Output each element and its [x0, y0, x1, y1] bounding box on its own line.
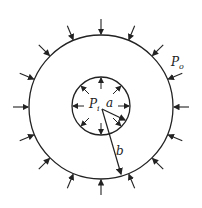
outer-pressure-arrow	[153, 159, 164, 170]
inner-radius-label: a	[106, 96, 113, 110]
inner-pressure-label: Pi	[89, 97, 100, 113]
outer-pressure-arrow	[39, 159, 50, 170]
outer-pressure-arrow	[153, 45, 164, 56]
outer-radius-label: b	[116, 144, 124, 158]
outer-circle	[29, 35, 173, 179]
inner-pressure-arrow	[81, 118, 89, 126]
outer-pressure-arrow	[39, 45, 50, 56]
inner-pressure-arrow	[113, 86, 121, 94]
radius-b-arrow	[102, 109, 121, 174]
outer-pressure-arrow	[20, 135, 34, 141]
outer-pressure-arrow	[67, 174, 73, 188]
outer-pressure-arrow	[168, 135, 182, 141]
outer-pressure-arrow	[129, 26, 135, 40]
outer-pressure-arrow	[168, 73, 182, 79]
outer-pressure-label: Po	[171, 55, 184, 71]
outer-pressure-arrow	[129, 174, 135, 188]
inner-pressure-arrows	[73, 78, 129, 134]
outer-pressure-arrow	[67, 26, 73, 40]
inner-pressure-arrow	[81, 86, 89, 94]
outer-pressure-arrow	[20, 73, 34, 79]
diagram: Po Pi a b	[0, 0, 202, 208]
inner-pressure-arrow	[113, 118, 121, 126]
cylinder-figure	[0, 0, 202, 208]
outer-pressure-arrows	[13, 19, 189, 195]
